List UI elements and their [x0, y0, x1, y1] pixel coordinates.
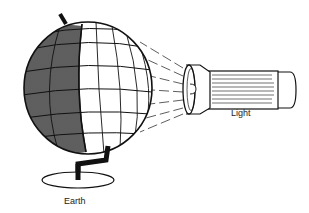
light-label: Light [231, 108, 251, 118]
illustration [0, 0, 309, 213]
globe-axis [60, 14, 66, 24]
globe [0, 0, 200, 200]
flashlight [183, 65, 296, 114]
diagram-canvas: Earth Light [0, 0, 309, 213]
earth-label: Earth [64, 196, 86, 206]
